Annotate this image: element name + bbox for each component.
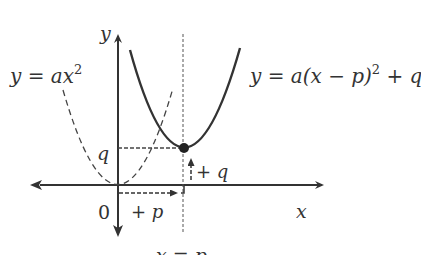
axis-of-symmetry-label: x = p: [156, 244, 207, 255]
translated-curve-base: y = a(x − p): [249, 64, 372, 88]
translated-curve-equation: y = a(x − p)2 + q: [249, 62, 421, 88]
translated-curve-suffix: + q: [380, 64, 421, 88]
vertex-point: [179, 143, 189, 153]
original-curve-base: y = ax: [9, 64, 74, 88]
shift-q-label: + q: [196, 161, 228, 182]
original-curve-equation: y = ax2: [9, 62, 82, 88]
shift-p-label: + p: [131, 201, 164, 222]
original-curve-exponent: 2: [74, 62, 82, 77]
y-axis-label: y: [99, 22, 111, 44]
origin-label: 0: [98, 201, 110, 223]
q-label: q: [97, 142, 109, 164]
x-axis-label: x: [296, 200, 307, 222]
parabola-translation-diagram: y x 0 q + p + q x = p y = ax2 y = a(x − …: [0, 0, 421, 255]
translated-parabola: [130, 48, 240, 148]
translated-curve-exponent: 2: [372, 62, 380, 77]
